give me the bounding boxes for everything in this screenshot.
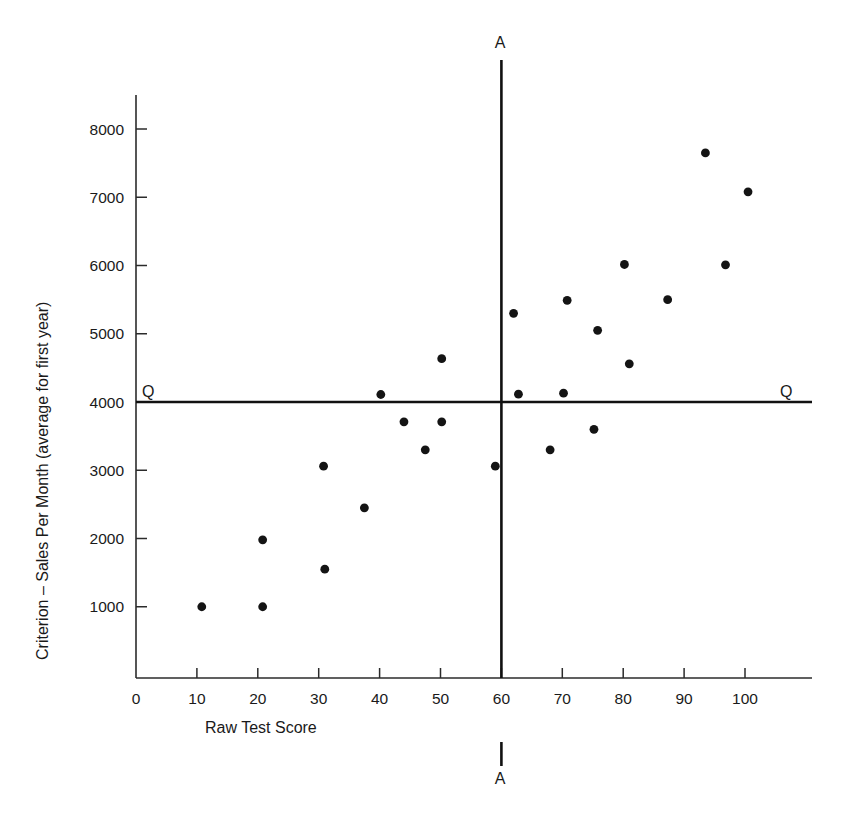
x-tick-label-10: 10: [188, 690, 206, 707]
data-point: [360, 503, 369, 512]
data-point: [437, 354, 446, 363]
x-tick-label-100: 100: [732, 690, 758, 707]
y-tick-label-3000: 3000: [90, 462, 125, 479]
cutoff-label-q-right: Q: [780, 383, 792, 400]
cutoff-label-a-top: A: [495, 34, 506, 51]
y-tick-label-5000: 5000: [90, 325, 125, 342]
x-tick-label-70: 70: [554, 690, 572, 707]
scatter-plot-figure: 10002000300040005000600070008000 0102030…: [0, 0, 843, 820]
data-point: [258, 602, 267, 611]
y-tick-label-2000: 2000: [90, 530, 125, 547]
data-point: [197, 602, 206, 611]
data-point: [509, 309, 518, 318]
data-point: [491, 462, 500, 471]
x-tick-label-group: 0102030405060708090100: [132, 690, 759, 707]
data-point: [376, 390, 385, 399]
x-tick-label-40: 40: [371, 690, 389, 707]
y-tick-label-1000: 1000: [90, 598, 125, 615]
x-tick-label-0: 0: [132, 690, 141, 707]
y-tick-label-7000: 7000: [90, 189, 125, 206]
data-point: [400, 417, 409, 426]
x-tick-label-50: 50: [432, 690, 450, 707]
y-tick-label-group: 10002000300040005000600070008000: [90, 121, 125, 616]
x-tick-group: [197, 668, 745, 678]
data-point-group: [197, 148, 752, 611]
data-point: [563, 296, 572, 305]
y-tick-group: [136, 129, 147, 607]
y-tick-label-8000: 8000: [90, 121, 125, 138]
reference-line-group: [136, 60, 812, 766]
data-point: [319, 462, 328, 471]
x-tick-label-60: 60: [493, 690, 511, 707]
cutoff-label-a-bottom: A: [495, 770, 506, 787]
data-point: [258, 535, 267, 544]
data-point: [721, 260, 730, 269]
x-tick-label-90: 90: [675, 690, 693, 707]
y-axis-title: Criterion – Sales Per Month (average for…: [34, 302, 51, 660]
data-point: [701, 148, 710, 157]
y-tick-label-6000: 6000: [90, 257, 125, 274]
data-point: [421, 445, 430, 454]
x-tick-label-30: 30: [310, 690, 328, 707]
x-tick-label-20: 20: [249, 690, 267, 707]
data-point: [437, 417, 446, 426]
data-point: [625, 359, 634, 368]
data-point: [559, 389, 568, 398]
x-tick-label-80: 80: [615, 690, 633, 707]
data-point: [546, 445, 555, 454]
x-axis-title: Raw Test Score: [205, 719, 317, 736]
y-tick-label-4000: 4000: [90, 394, 125, 411]
data-point: [593, 326, 602, 335]
data-point: [620, 260, 629, 269]
data-point: [663, 295, 672, 304]
plot-canvas: 10002000300040005000600070008000 0102030…: [0, 0, 843, 820]
data-point: [514, 390, 523, 399]
data-point: [320, 565, 329, 574]
cutoff-label-q-left: Q: [142, 383, 154, 400]
axes-group: [136, 95, 812, 678]
data-point: [744, 187, 753, 196]
data-point: [590, 425, 599, 434]
